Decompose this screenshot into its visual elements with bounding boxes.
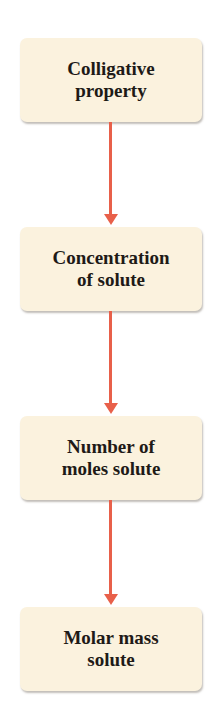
- node-label: Molar mass solute: [63, 627, 158, 671]
- arrow-down-icon: [104, 500, 116, 605]
- node-colligative-property: Colligative property: [20, 38, 202, 122]
- arrow-down-icon: [104, 122, 116, 225]
- arrowhead: [104, 214, 118, 225]
- arrowhead: [104, 403, 118, 414]
- arrow-down-icon: [104, 311, 116, 414]
- node-concentration-of-solute: Concentration of solute: [20, 227, 202, 311]
- node-number-of-moles-solute: Number of moles solute: [20, 416, 202, 500]
- arrow-shaft: [109, 311, 112, 404]
- node-label: Colligative property: [67, 58, 155, 102]
- arrow-shaft: [109, 500, 112, 595]
- arrowhead: [104, 594, 118, 605]
- node-molar-mass-solute: Molar mass solute: [20, 607, 202, 691]
- node-label: Concentration of solute: [52, 247, 169, 291]
- arrow-shaft: [109, 122, 112, 215]
- node-label: Number of moles solute: [62, 436, 161, 480]
